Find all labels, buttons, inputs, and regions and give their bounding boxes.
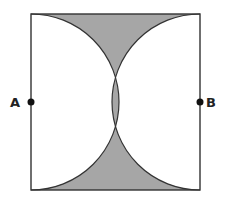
geometry-figure: A B [0, 0, 226, 200]
point-a-dot [28, 99, 35, 106]
shaded-region [31, 14, 200, 190]
point-a-label: A [10, 95, 20, 110]
point-b-label: B [206, 95, 216, 110]
point-b-dot [197, 99, 204, 106]
